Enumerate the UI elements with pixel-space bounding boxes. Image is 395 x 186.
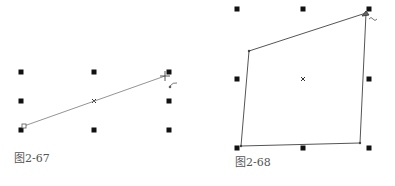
figure-caption: 图2-68	[235, 153, 271, 169]
polygon-nodes[interactable]	[240, 50, 361, 147]
center-marker-icon	[301, 77, 305, 81]
figure-2-68-canvas	[0, 0, 395, 186]
tilde-cursor-icon	[369, 18, 377, 21]
figure-2-68: 图2-68	[0, 0, 395, 186]
